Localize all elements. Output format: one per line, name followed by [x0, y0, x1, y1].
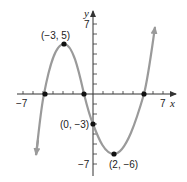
point-y-intercept [90, 121, 95, 126]
x-min-label: −7 [16, 98, 28, 109]
y-intercept-label: (0, −3) [60, 119, 89, 130]
marked-points [42, 41, 146, 156]
graph-canvas: −7 7 x y 7 −7 (−3, 5) (0, −3) (2, −6) [0, 0, 187, 182]
y-max-label: 7 [84, 19, 90, 30]
point-x-intercept-neg1 [81, 91, 86, 96]
polynomial-curve [36, 27, 155, 155]
point-x-intercept-5 [141, 91, 146, 96]
point-max [61, 41, 66, 46]
x-axis-label: x [169, 97, 175, 109]
curve-left-arrow [36, 140, 38, 155]
point-x-intercept-neg5 [42, 91, 47, 96]
y-axis-label: y [83, 7, 89, 19]
min-point-label: (2, −6) [109, 159, 138, 170]
point-min [111, 151, 116, 156]
y-min-label: −7 [78, 159, 90, 170]
x-max-label: 7 [160, 98, 166, 109]
max-point-label: (−3, 5) [41, 30, 70, 41]
